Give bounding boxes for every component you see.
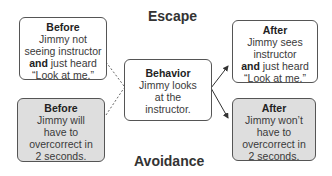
box-title: After <box>233 24 317 36</box>
avoidance-label: Avoidance <box>134 153 204 169</box>
box-text: and just heard <box>20 57 106 69</box>
box-text: have to <box>18 126 104 138</box>
box-text: Jimmy won’t <box>233 114 315 126</box>
box-title: After <box>233 102 315 114</box>
dashed-line-avoid <box>106 88 124 115</box>
box-title: Before <box>20 21 106 33</box>
box-text: Jimmy will <box>18 114 104 126</box>
box-text: 2 seconds. <box>233 150 315 162</box>
box-title: Behavior <box>125 67 211 79</box>
box-text: at the <box>125 91 211 103</box>
box-text: “Look at me.” <box>233 72 317 84</box>
behavior-box: Behavior Jimmy looks at the instructor. <box>124 59 212 121</box>
box-text: instructor. <box>125 103 211 115</box>
before-escape-box: Before Jimmy not seeing instructor and j… <box>19 17 107 80</box>
box-text: Jimmy looks <box>125 79 211 91</box>
escape-label: Escape <box>148 8 197 24</box>
box-text: overcorrect in <box>233 138 315 150</box>
box-text: Jimmy not <box>20 33 106 45</box>
box-text: have to <box>233 126 315 138</box>
box-text: Jimmy sees <box>233 36 317 48</box>
box-text: overcorrect in <box>18 138 104 150</box>
box-text: seeing instructor <box>20 45 106 57</box>
box-title: Before <box>18 102 104 114</box>
box-text: “Look at me.” <box>20 69 106 81</box>
after-escape-box: After Jimmy sees instructor and just hea… <box>232 20 318 83</box>
arrow-to-after-avoid <box>211 88 228 118</box>
box-text: instructor <box>233 48 317 60</box>
box-text: 2 seconds. <box>18 150 104 162</box>
before-avoidance-box: Before Jimmy will have to overcorrect in… <box>17 98 105 162</box>
arrow-to-after-escape <box>211 66 228 88</box>
after-avoidance-box: After Jimmy won’t have to overcorrect in… <box>232 98 316 161</box>
box-text: and just heard <box>233 60 317 72</box>
dashed-line-escape <box>106 62 124 86</box>
